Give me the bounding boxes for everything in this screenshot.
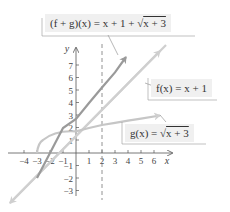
sum-function-label-prefix: (f + g)(x) = x + 1 + — [50, 17, 137, 29]
x-axis-name: x — [164, 155, 170, 166]
sum-function-label: (f + g)(x) = x + 1 + √x + 3 — [45, 14, 171, 32]
y-tick-label: −2 — [63, 174, 73, 184]
sum-label-leader — [108, 35, 118, 55]
g-function-label-prefix: g(x) = — [130, 127, 160, 139]
f-function-label: f(x) = x + 1 — [151, 79, 212, 97]
y-tick-label: 3 — [69, 111, 74, 121]
g-label-leader — [160, 115, 166, 122]
y-ticks — [76, 65, 79, 191]
x-tick-label: 4 — [126, 156, 131, 166]
sum-function-label-root: x + 3 — [143, 17, 166, 29]
x-tick-label: 3 — [113, 156, 118, 166]
y-tick-label: 5 — [69, 86, 74, 96]
x-tick-label: 6 — [152, 156, 157, 166]
f-function-label-text: f(x) = x + 1 — [156, 82, 207, 94]
x-tick-labels: −4 −3 −2 −1 1 2 3 4 5 6 x — [19, 155, 170, 166]
y-tick-label: 4 — [69, 98, 74, 108]
g-function-label: g(x) = √x + 3 — [125, 124, 194, 142]
y-tick-label: −1 — [63, 161, 73, 171]
y-tick-labels: −3 −2 −1 1 2 3 4 5 6 7 y — [63, 43, 73, 196]
y-tick-label: 6 — [69, 73, 74, 83]
y-tick-label: 7 — [69, 61, 74, 71]
g-function-label-root: x + 3 — [166, 127, 189, 139]
x-tick-label: −3 — [32, 156, 42, 166]
x-ticks — [24, 150, 154, 153]
y-tick-label: −3 — [63, 186, 73, 196]
y-axis-name: y — [64, 43, 70, 54]
x-tick-label: 5 — [139, 156, 144, 166]
x-tick-label: 1 — [87, 156, 92, 166]
x-tick-label: −4 — [19, 156, 29, 166]
